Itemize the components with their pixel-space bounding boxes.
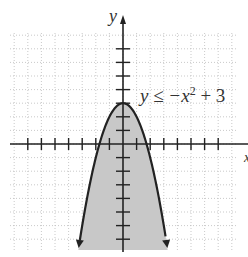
inequality-label: y ≤ −x2 + 3 <box>140 84 225 107</box>
inequality-text: y ≤ −x <box>140 85 190 106</box>
inequality-tail: + 3 <box>196 85 226 106</box>
graph-plot <box>0 0 248 257</box>
x-axis-label: x <box>244 150 248 166</box>
y-axis-label: y <box>109 6 117 27</box>
